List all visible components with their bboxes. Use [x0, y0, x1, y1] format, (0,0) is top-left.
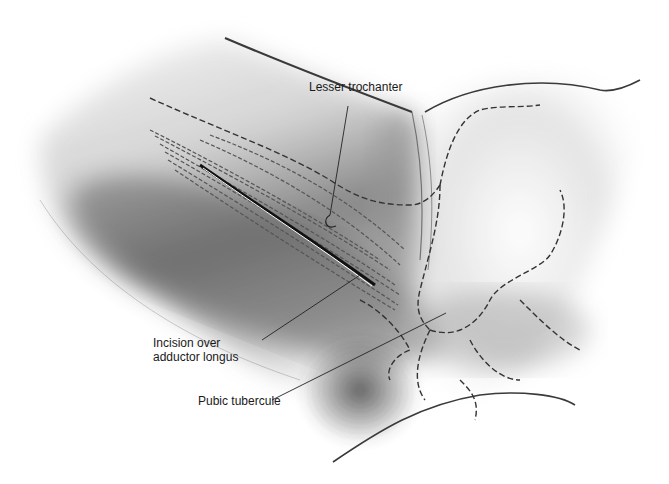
label-text-line-2: adductor longus	[153, 350, 238, 364]
label-lesser-trochanter: Lesser trochanter	[309, 80, 402, 94]
label-text-line-1: Incision over	[153, 336, 238, 350]
label-text: Pubic tubercule	[198, 394, 281, 408]
label-incision-over-adductor-longus: Incision over adductor longus	[153, 336, 238, 364]
label-text: Lesser trochanter	[309, 80, 402, 94]
anatomical-illustration	[0, 0, 669, 484]
groin-shading	[400, 80, 640, 420]
label-pubic-tubercule: Pubic tubercule	[198, 394, 281, 408]
